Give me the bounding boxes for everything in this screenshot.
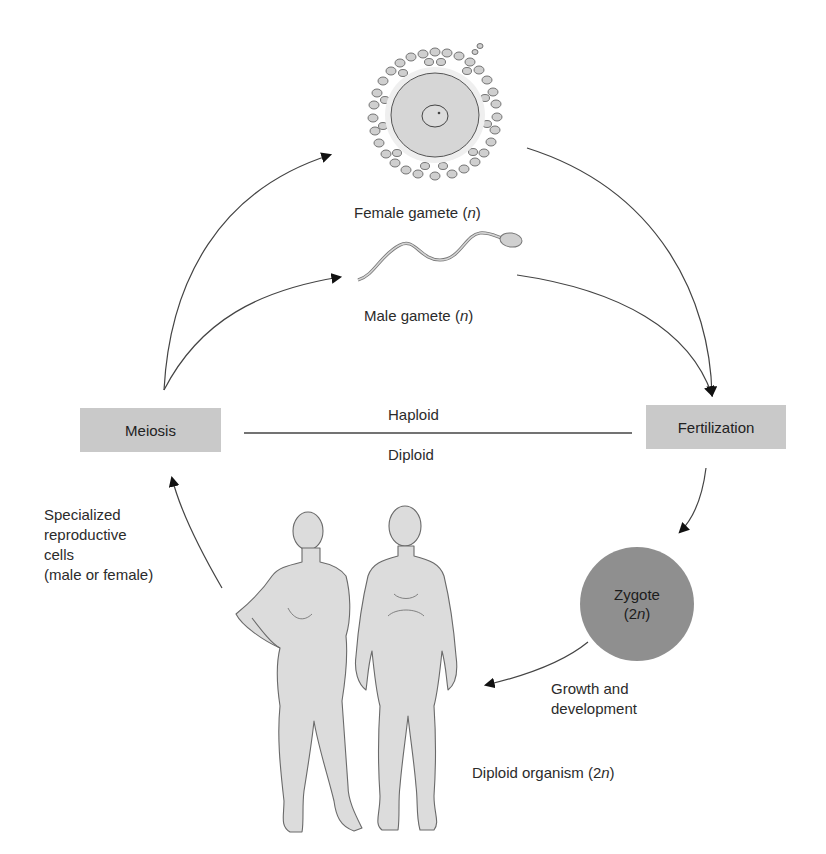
specialized-line-1: Specialized xyxy=(44,505,214,525)
haploid-label: Haploid xyxy=(388,406,439,423)
arrow-male-gamete-to-fertilization xyxy=(517,275,712,395)
zygote-ploidy: (2n) xyxy=(624,604,651,623)
arrow-meiosis-to-female-gamete xyxy=(164,155,330,390)
egg-cell-icon xyxy=(355,40,515,190)
growth-development-label: Growth and development xyxy=(551,679,637,719)
sperm-cell-icon xyxy=(355,225,525,285)
diploid-label: Diploid xyxy=(388,446,434,463)
zygote-circle: Zygote (2n) xyxy=(580,547,694,661)
female-gamete-label: Female gamete (n) xyxy=(354,204,481,221)
specialized-line-3: cells xyxy=(44,545,214,565)
diploid-organism-label: Diploid organism (2n) xyxy=(472,764,615,781)
fertilization-label: Fertilization xyxy=(678,419,755,436)
specialized-line-4: (male or female) xyxy=(44,565,214,585)
diploid-organism-figures-icon xyxy=(222,496,462,848)
meiosis-label: Meiosis xyxy=(125,422,176,439)
arrow-female-gamete-to-fertilization xyxy=(527,148,712,395)
zygote-label: Zygote xyxy=(614,585,660,604)
growth-line-1: Growth and xyxy=(551,679,637,699)
arrow-fertilization-to-zygote xyxy=(680,468,706,532)
growth-line-2: development xyxy=(551,699,637,719)
specialized-line-2: reproductive xyxy=(44,525,214,545)
male-figure-icon xyxy=(355,506,456,830)
female-figure-icon xyxy=(236,512,362,832)
meiosis-box: Meiosis xyxy=(80,408,221,452)
fertilization-box: Fertilization xyxy=(646,405,786,449)
male-gamete-label: Male gamete (n) xyxy=(364,307,473,324)
specialized-cells-label: Specialized reproductive cells (male or … xyxy=(44,505,214,585)
arrow-meiosis-to-male-gamete xyxy=(164,277,340,390)
